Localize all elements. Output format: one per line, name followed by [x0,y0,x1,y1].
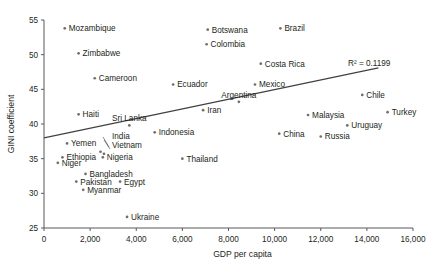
data-point-label: China [283,130,305,139]
data-point-marker [202,109,205,112]
data-point-label: Uruguay [351,121,383,130]
data-point-label: Malaysia [312,111,345,120]
scatter-chart: 2530354045505502,0004,0006,0008,00010,00… [0,0,427,269]
data-point-marker [77,52,80,55]
data-point-marker [99,150,102,153]
x-tick-label: 8,000 [218,235,239,244]
x-tick-label: 10,000 [262,235,287,244]
x-tick-label: 6,000 [172,235,193,244]
x-tick-label: 4,000 [126,235,147,244]
data-point-marker [254,83,257,86]
data-point-label: Thailand [186,155,218,164]
data-point-label: Turkey [392,108,418,117]
data-point-label: Cameroon [99,74,138,83]
y-tick-label: 25 [29,224,39,233]
data-point-label: Sri Lanka [112,114,147,123]
data-point-marker [319,135,322,138]
data-point-label: Haiti [83,110,100,119]
x-tick-label: 12,000 [308,235,333,244]
data-point-label: Yemen [71,139,97,148]
chart-canvas: 2530354045505502,0004,0006,0008,00010,00… [0,0,427,269]
india-leader-line [103,137,109,147]
x-tick-label: 16,000 [400,235,425,244]
data-point-label: Argentina [221,91,256,100]
data-point-label: Costa Rica [265,60,305,69]
data-point-label: Chile [366,91,385,100]
data-point-label: Botswana [212,26,248,35]
y-axis-title: GINI coefficient [6,94,16,153]
data-point-label: Myanmar [87,186,121,195]
y-tick-label: 50 [29,51,39,60]
data-point-marker [259,62,262,65]
data-point-label: Egypt [124,178,146,187]
data-point-marker [153,131,156,134]
data-point-marker [93,77,96,80]
data-point-marker [361,94,364,97]
data-point-marker [278,132,281,135]
data-point-marker [119,180,122,183]
data-point-label: Indonesia [159,128,195,137]
data-point-marker [346,124,349,127]
data-point-label: Niger [62,159,82,168]
data-point-marker [238,100,241,103]
data-point-marker [205,43,208,46]
x-axis-title: GDP per capita [213,249,272,259]
data-point-marker [75,180,78,183]
data-point-marker [172,83,175,86]
data-point-marker [66,142,69,145]
data-point-label: Vietnam [112,141,142,150]
data-point-marker [128,124,131,127]
data-point-marker [56,161,59,164]
y-tick-label: 45 [29,85,39,94]
data-point-marker [181,157,184,160]
data-point-label: Russia [325,132,350,141]
vietnam-leader-line [104,140,110,149]
data-point-marker [77,113,80,116]
data-point-label: Nigeria [107,153,133,162]
r-squared-annotation: R² = 0.1199 [348,59,391,68]
data-point-marker [126,216,129,219]
y-tick-label: 55 [29,16,39,25]
data-point-label: Ecuador [177,80,208,89]
x-tick-label: 14,000 [354,235,379,244]
data-point-label: Mexico [259,80,285,89]
data-point-marker [82,189,85,192]
data-point-label: Brazil [284,24,305,33]
x-tick-label: 0 [42,235,47,244]
data-point-marker [307,114,310,117]
data-point-marker [206,28,209,31]
data-point-marker [63,27,66,30]
y-tick-label: 35 [29,155,39,164]
y-tick-label: 30 [29,189,39,198]
data-point-label: India [112,132,130,141]
x-tick-label: 2,000 [80,235,101,244]
data-point-marker [101,156,104,159]
data-point-label: Zimbabwe [83,49,121,58]
data-point-label: Ukraine [131,213,160,222]
data-point-marker [103,152,106,155]
data-point-label: Colombia [211,40,246,49]
data-point-marker [279,27,282,30]
data-point-marker [386,111,389,114]
data-point-label: Mozambique [69,24,116,33]
data-point-marker [84,173,87,176]
data-point-label: Iran [207,106,222,115]
y-tick-label: 40 [29,120,39,129]
